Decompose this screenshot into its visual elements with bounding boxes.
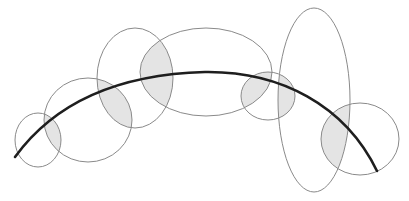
ellipse-chain-diagram [0,0,409,201]
overlap-regions [44,8,399,192]
ellipses [15,8,399,192]
curve-path [15,72,377,171]
